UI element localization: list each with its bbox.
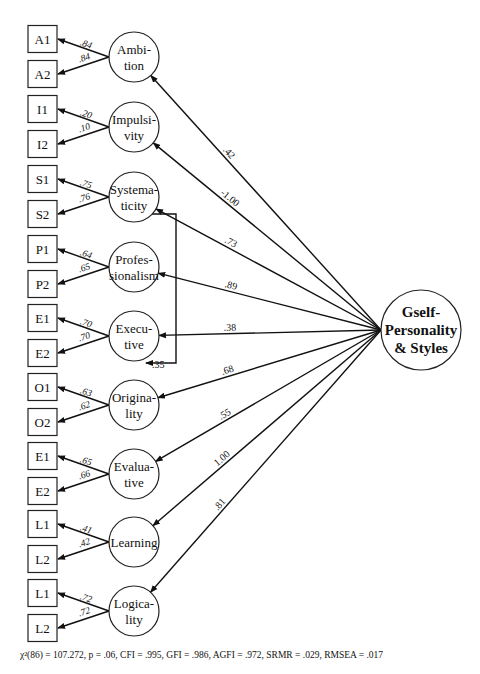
loading-value: .42 (77, 536, 92, 549)
g-loading-arrow (158, 273, 381, 330)
g-loading-arrow (153, 330, 381, 526)
loading-value: .63 (79, 385, 94, 398)
factor-executive (109, 311, 159, 361)
indicator-label: S2 (36, 207, 50, 222)
indicator-label: A2 (35, 67, 51, 82)
g-loading-value: 1.00 (211, 448, 231, 468)
factor-label: Impulsi- (112, 112, 156, 127)
factor-label: Execu- (116, 321, 153, 336)
correlated-residual-value: .35 (152, 359, 165, 370)
factor-label: Logica- (114, 596, 154, 611)
loading-value: .72 (77, 605, 92, 618)
factor-label: Systema- (110, 182, 158, 197)
loading-value: .70 (79, 316, 94, 329)
factor-label: lity (125, 406, 143, 421)
indicator-label: L2 (35, 621, 49, 636)
indicator-label: L1 (35, 517, 49, 532)
factor-ambition (109, 32, 159, 82)
indicator-label: P2 (36, 277, 50, 292)
indicator-label: L1 (35, 586, 49, 601)
factor-professionalism (109, 242, 159, 292)
g-loading-arrow (153, 143, 381, 330)
factor-label: Learning (111, 535, 158, 550)
g-loading-arrow (156, 330, 381, 461)
indicator-label: I1 (37, 102, 48, 117)
indicator-label: A1 (35, 32, 51, 47)
loading-value: .41 (79, 522, 93, 535)
g-loading-arrow (156, 209, 381, 330)
loading-value: .20 (79, 107, 94, 120)
loading-value: .65 (77, 261, 92, 274)
indicator-label: P1 (36, 242, 50, 257)
factor-label: Evalua- (114, 459, 154, 474)
g-loading-value: .42 (221, 144, 238, 161)
factor-label: Origina- (112, 390, 156, 405)
indicator-label: S1 (36, 172, 50, 187)
indicator-label: E1 (35, 449, 49, 464)
factor-impulsivity (109, 102, 159, 152)
general-factor-label: & Styles (394, 340, 448, 356)
loading-value: .76 (77, 191, 92, 204)
factor-label: Ambi- (117, 42, 151, 57)
loading-value: .84 (77, 51, 92, 64)
g-loading-value: .73 (223, 234, 239, 250)
loading-value: .64 (79, 247, 94, 260)
factor-logicality (109, 586, 159, 636)
loading-value: .65 (79, 454, 94, 467)
sem-diagram: A1.84A2.84Ambi-tion.42I1.20I2.10Impulsi-… (0, 0, 480, 674)
g-loading-arrow (151, 330, 381, 592)
factor-label: Profes- (115, 252, 153, 267)
indicator-label: O1 (35, 380, 51, 395)
indicator-label: E2 (35, 346, 49, 361)
loading-value: .10 (77, 121, 92, 134)
factor-label: sionalism (109, 268, 159, 283)
g-loading-value: .55 (216, 406, 232, 422)
loading-value: .66 (77, 468, 92, 481)
loading-value: .75 (79, 177, 94, 190)
factor-systematicity (109, 172, 159, 222)
fit-statistics: χ²(86) = 107.272, p = .06, CFI = .995, G… (20, 650, 383, 660)
factor-label: tive (124, 475, 144, 490)
indicator-label: O2 (35, 415, 51, 430)
g-loading-arrow (158, 330, 381, 398)
indicator-label: I2 (37, 137, 48, 152)
factor-label: vity (124, 128, 145, 143)
loading-value: .70 (77, 330, 92, 343)
factor-label: tive (124, 337, 144, 352)
indicator-label: L2 (35, 552, 49, 567)
loading-value: .72 (79, 591, 94, 604)
general-factor-label: Personality (385, 322, 458, 338)
factor-originality (109, 380, 159, 430)
indicator-label: E1 (35, 311, 49, 326)
factor-evaluative (109, 449, 159, 499)
g-loading-arrow (159, 330, 381, 335)
factor-label: ticity (121, 198, 148, 213)
indicator-label: E2 (35, 484, 49, 499)
factor-label: tion (124, 58, 145, 73)
g-loading-value: .81 (211, 496, 228, 513)
g-loading-arrow (151, 76, 381, 330)
g-loading-value: .38 (223, 322, 236, 333)
loading-value: .62 (77, 399, 92, 412)
loading-value: .84 (79, 37, 94, 50)
general-factor-label: Gself- (402, 304, 440, 320)
factor-label: lity (125, 612, 143, 627)
